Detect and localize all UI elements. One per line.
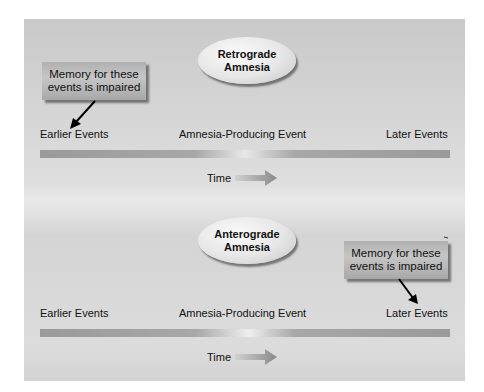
timeline-left-label: Earlier Events [40,128,108,140]
timeline-center-label: Amnesia-Producing Event [179,128,306,140]
anterograde-section: Anterograde Amnesia Memory for these eve… [24,200,465,381]
time-label: Time [207,172,231,184]
time-label: Time [207,351,231,363]
timeline-right-label: Later Events [386,128,448,140]
timeline-left-label: Earlier Events [40,307,108,319]
right-arrow-icon [235,349,281,365]
right-arrow-icon [235,170,281,186]
timeline-right-label: Later Events [386,307,448,319]
retrograde-section: Retrograde Amnesia Memory for these even… [24,19,465,200]
timeline-bar [40,329,450,337]
timeline-bar [40,150,450,158]
timeline-center-label: Amnesia-Producing Event [179,307,306,319]
diagram-panel: Retrograde Amnesia Memory for these even… [24,19,465,381]
